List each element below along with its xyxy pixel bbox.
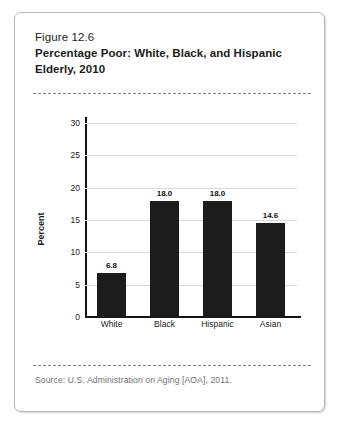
- dashed-divider-bottom: [33, 365, 311, 366]
- gridline: [85, 188, 297, 189]
- x-axis-tick-label: White: [101, 319, 123, 329]
- bar: 14.6: [256, 223, 286, 317]
- y-axis-tick-label: 5: [75, 280, 80, 290]
- y-axis-tick-label: 0: [75, 312, 80, 322]
- x-axis-tick-label: Black: [154, 319, 175, 329]
- figure-title-block: Figure 12.6 Percentage Poor: White, Blac…: [35, 30, 303, 77]
- bar: 18.0: [150, 201, 180, 317]
- gridline: [85, 220, 297, 221]
- x-axis-tick-label: Hispanic: [201, 319, 234, 329]
- bar-value-label: 14.6: [263, 211, 279, 220]
- plot-area: 0510152025306.818.018.014.6: [85, 123, 297, 317]
- y-axis-tick-label: 25: [71, 150, 80, 160]
- y-axis-tick-label: 10: [71, 247, 80, 257]
- figure-title: Percentage Poor: White, Black, and Hispa…: [35, 46, 303, 77]
- bar: 18.0: [203, 201, 233, 317]
- bar-chart: Percent 0510152025306.818.018.014.6 Whit…: [33, 105, 311, 353]
- bar-value-label: 18.0: [210, 189, 226, 198]
- y-axis-title: Percent: [36, 212, 46, 245]
- source-note: Source: U.S. Administration on Aging [AO…: [35, 375, 305, 385]
- figure-number: Figure 12.6: [35, 30, 303, 45]
- bar-value-label: 6.8: [106, 261, 117, 270]
- x-axis-tick-label: Asian: [260, 319, 281, 329]
- y-axis-tick-label: 15: [71, 215, 80, 225]
- bar: 6.8: [97, 273, 127, 317]
- y-axis-tick-label: 20: [71, 183, 80, 193]
- dashed-divider-top: [33, 93, 311, 94]
- figure-card: Figure 12.6 Percentage Poor: White, Blac…: [14, 12, 325, 412]
- bar-value-label: 18.0: [157, 189, 173, 198]
- gridline: [85, 155, 297, 156]
- y-axis-tick-label: 30: [71, 118, 80, 128]
- gridline: [85, 123, 297, 124]
